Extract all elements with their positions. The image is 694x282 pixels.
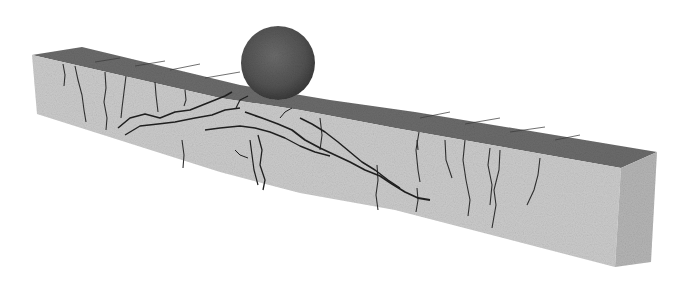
beam-front-face (32, 55, 621, 267)
beam-end-face (615, 152, 657, 267)
impact-sphere (241, 26, 315, 100)
beam-impact-scene (0, 0, 694, 282)
